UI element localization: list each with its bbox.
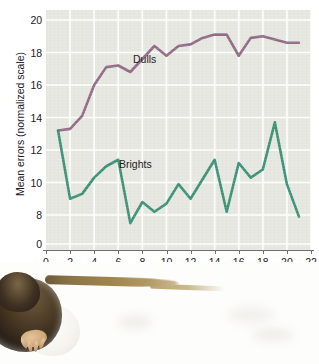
chart-series-lines	[46, 10, 311, 250]
chart-plot-area	[46, 10, 311, 250]
x-axis-tick	[215, 250, 216, 254]
x-axis-tick	[167, 250, 168, 254]
y-tick-label-zero: 0	[6, 239, 42, 249]
rat-photograph	[0, 262, 319, 364]
rat-head	[0, 272, 40, 312]
y-tick-label: 20	[6, 15, 42, 25]
x-axis-tick	[46, 250, 47, 254]
x-axis-line	[43, 250, 314, 251]
x-axis-tick	[94, 250, 95, 254]
series-label-dulls: Dulls	[133, 53, 156, 65]
x-axis-tick	[287, 250, 288, 254]
x-axis-tick	[191, 250, 192, 254]
rat-tail	[45, 275, 180, 288]
x-axis-tick	[263, 250, 264, 254]
x-axis-tick	[70, 250, 71, 254]
x-axis-tick	[239, 250, 240, 254]
x-axis-tick	[142, 250, 143, 254]
series-label-brights: Brights	[119, 158, 152, 170]
x-axis-tick	[118, 250, 119, 254]
x-axis-tick	[311, 250, 312, 254]
figure-container: Dulls Brights 20181614121080 02468101214…	[0, 0, 319, 364]
y-axis-title: Mean errors (normalized scale)	[14, 34, 26, 214]
